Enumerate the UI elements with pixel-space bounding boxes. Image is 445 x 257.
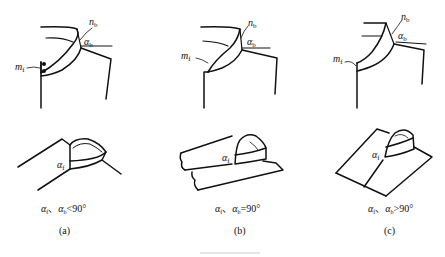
condition-b: αf、αb=90° [215,204,260,215]
label-alpha-f-c: αf [372,150,380,162]
panel-label-b: (b) [234,226,246,236]
label-mf-a: mf [15,62,25,74]
panel-a-collar-view [27,27,112,108]
panel-label-c: (c) [384,226,395,236]
button-icon [42,69,46,73]
panel-c-folded-view [336,129,432,196]
panel-label-a: (a) [59,226,70,236]
panel-b-folded-view [180,135,283,190]
condition-c: αf、αb>90° [368,204,413,215]
label-alpha-b-a: αb [84,37,93,49]
label-nb-c: nb [401,12,410,24]
panel-a-folded-view [18,139,121,190]
figure-caption-faint [200,252,260,254]
label-mf-b: mf [181,51,191,63]
label-mf-c: mf [333,54,343,66]
label-alpha-f-b: αf [222,153,230,165]
label-nb-a: nb [89,17,98,29]
label-alpha-b-c: αb [398,31,407,43]
label-alpha-f-a: αf [57,160,65,172]
label-alpha-b-b: αb [247,37,256,49]
collar-diagram-drawing [0,0,445,257]
panel-b-collar-view [196,26,277,108]
label-nb-b: nb [248,18,257,30]
panel-c-collar-view [345,20,426,108]
button-icon [42,62,46,66]
condition-a: αf、αb<90° [41,204,86,215]
